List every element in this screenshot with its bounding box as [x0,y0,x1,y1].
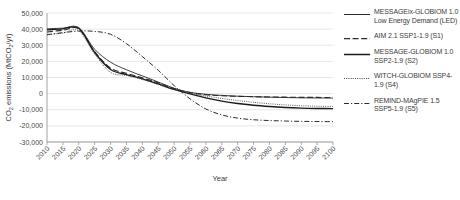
x-axis-tick-label: 2080 [257,145,273,161]
x-axis-tick-label: 2100 [321,145,337,161]
legend-swatch-dashed-icon [344,34,370,43]
legend-swatch-solid-thick-icon [344,50,370,59]
legend-entry-2[interactable]: AIM 2.1 SSP1-1.9 (S1) [344,32,460,41]
y-axis-tick-label: 0 [39,90,43,97]
y-axis-tick-label: -30,000 [19,139,43,146]
legend-label: MESSAGEix-GLOBIOM 1.0 Low Energy Demand … [374,8,460,25]
x-axis-tick-label: 2010 [35,145,51,161]
legend-entry-5[interactable]: REMIND-MAgPIE 1.5 SSP5-1.9 (S5) [344,97,460,114]
x-axis-tick-label: 2075 [241,145,257,161]
y-axis-tick-label: 10,000 [22,74,44,81]
x-axis-tick-label: 2085 [273,145,289,161]
x-axis-tick-label: 2065 [210,145,226,161]
series-line-3 [47,27,333,109]
x-axis-tick-label: 2050 [162,145,178,161]
legend-swatch-dotted-icon [344,74,370,83]
y-axis-tick-label: -20,000 [19,122,43,129]
legend-entry-1[interactable]: MESSAGEix-GLOBIOM 1.0 Low Energy Demand … [344,8,460,25]
x-axis-title: Year [212,174,228,183]
series-line-2 [47,28,333,98]
emissions-line-chart: 50,00040,00030,00020,00010,0000-10,000-2… [0,0,460,200]
chart-legend: MESSAGEix-GLOBIOM 1.0 Low Energy Demand … [344,8,460,121]
legend-swatch-dashdot-icon [344,99,370,108]
x-axis-tick-label: 2040 [130,145,146,161]
y-axis-title: CO2 emissions (MtCO2/yr) [4,33,14,121]
legend-label: REMIND-MAgPIE 1.5 SSP5-1.9 (S5) [374,97,460,114]
x-axis-tick-label: 2015 [51,145,67,161]
x-axis-tick-label: 2025 [82,145,98,161]
y-axis-tick-label: 50,000 [22,10,44,17]
y-axis-tick-label: -10,000 [19,106,43,113]
legend-label: AIM 2.1 SSP1-1.9 (S1) [374,32,443,41]
x-axis-tick-label: 2095 [305,145,321,161]
legend-label: WITCH-GLOBIOM SSP4-1.9 (S4) [374,72,460,89]
y-axis-tick-label: 20,000 [22,58,44,65]
series-group [47,26,333,121]
y-axis-tick-label: 40,000 [22,26,44,33]
x-axis-tick-label: 2090 [289,145,305,161]
legend-swatch-solid-thin-icon [344,10,370,19]
x-axis-tick-label: 2060 [194,145,210,161]
x-axis-tick-label: 2045 [146,145,162,161]
x-axis-tick-label: 2020 [67,145,83,161]
legend-entry-3[interactable]: MESSAGE-GLOBIOM 1.0 SSP2-1.9 (S2) [344,48,460,65]
x-axis-tick-label: 2030 [98,145,114,161]
x-axis-tick-label: 2035 [114,145,130,161]
series-line-4 [47,30,333,107]
legend-label: MESSAGE-GLOBIOM 1.0 SSP2-1.9 (S2) [374,48,460,65]
legend-entry-4[interactable]: WITCH-GLOBIOM SSP4-1.9 (S4) [344,72,460,89]
x-axis-tick-label: 2070 [225,145,241,161]
series-line-1 [47,26,333,98]
y-axis-tick-label: 30,000 [22,42,44,49]
x-axis-tick-label: 2055 [178,145,194,161]
